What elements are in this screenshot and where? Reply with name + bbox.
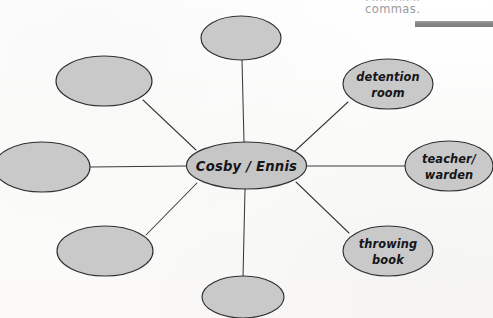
node-teacher-warden-label-line2: warden <box>425 168 473 182</box>
node-center[interactable]: Cosby / Ennis <box>187 142 307 189</box>
edge-center-top <box>242 60 244 142</box>
edge-center-bottom <box>243 189 245 277</box>
node-top[interactable] <box>201 16 281 60</box>
edge-center-detention <box>295 102 348 151</box>
node-detention-room-label-line1: detention <box>356 70 419 84</box>
concept-map-diagram: detention room teacher/ warden throwing … <box>0 0 493 318</box>
edge-center-bottom-left <box>146 183 197 235</box>
node-teacher-warden[interactable]: teacher/ warden <box>405 141 493 191</box>
node-detention-room[interactable]: detention room <box>343 59 433 109</box>
node-left[interactable] <box>0 142 90 192</box>
node-bottom[interactable] <box>202 276 284 318</box>
node-top-left[interactable] <box>56 56 152 106</box>
edge-center-left <box>90 166 186 167</box>
edge-center-top-left <box>143 100 196 150</box>
worksheet-page: detention room teacher/ warden throwing … <box>0 0 493 318</box>
worksheet-clipped-line: commas, <box>365 0 485 1</box>
node-teacher-warden-shape[interactable] <box>405 141 493 191</box>
node-center-label: Cosby / Ennis <box>196 159 297 174</box>
worksheet-visible-line: commas. <box>365 2 485 16</box>
edge-center-throwing <box>296 182 349 233</box>
node-teacher-warden-label-line1: teacher/ <box>422 152 477 166</box>
node-detention-room-label-line2: room <box>371 86 405 100</box>
node-throwing-book[interactable]: throwing book <box>343 226 433 276</box>
node-bottom-left[interactable] <box>57 226 153 276</box>
node-throwing-book-shape[interactable] <box>343 226 433 276</box>
node-detention-room-shape[interactable] <box>343 59 433 109</box>
node-throwing-book-label-line1: throwing <box>359 237 418 251</box>
node-throwing-book-label-line2: book <box>372 253 405 267</box>
worksheet-gray-rule-bar <box>415 21 493 27</box>
